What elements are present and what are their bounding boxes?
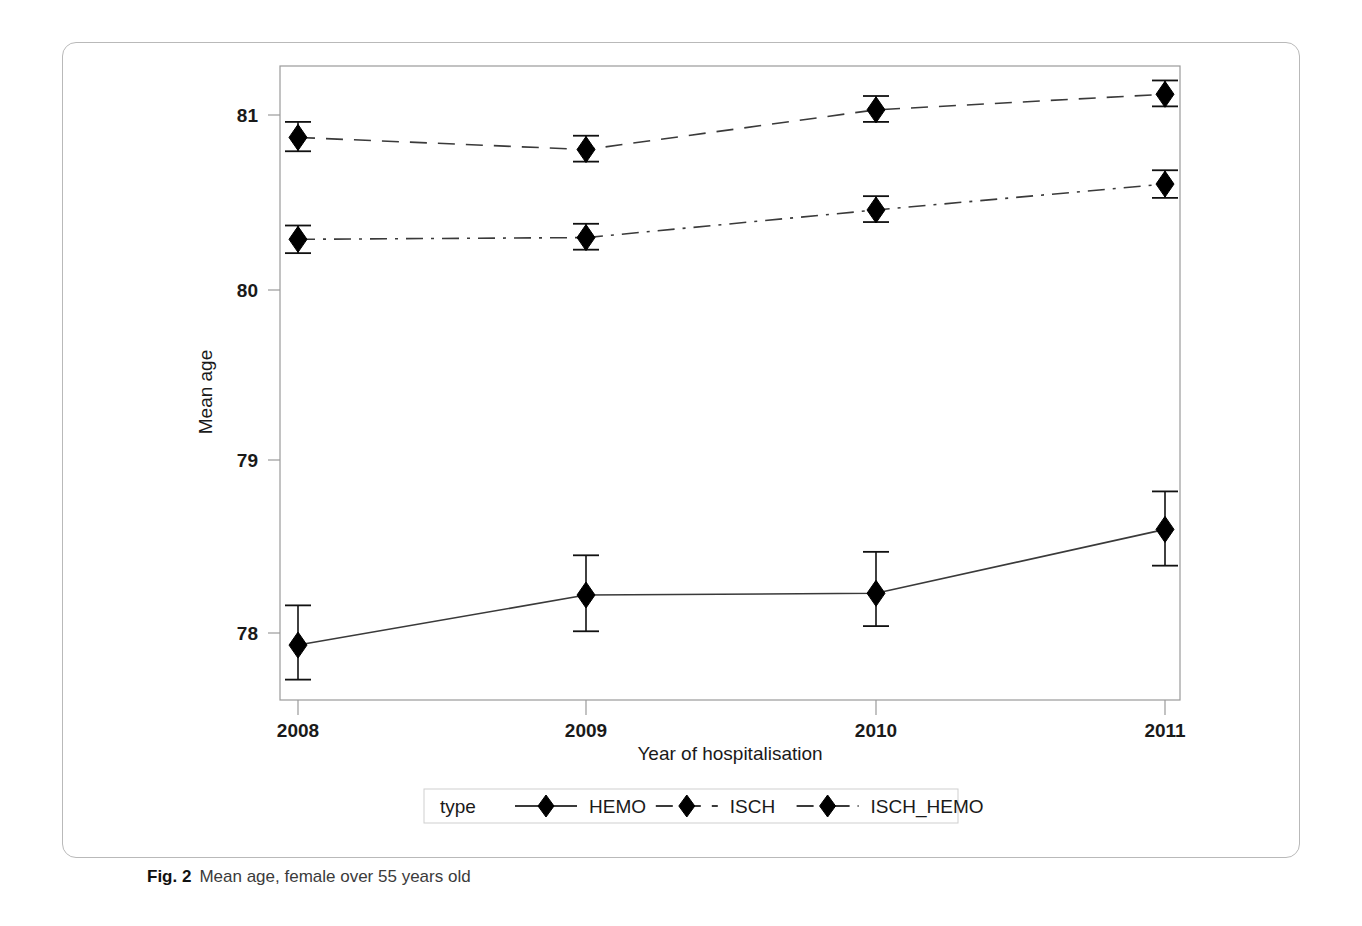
- series-line: [298, 94, 1165, 149]
- data-point-marker: [289, 226, 307, 252]
- x-axis-ticks: 2008200920102011: [277, 700, 1186, 741]
- series-isch: [285, 80, 1178, 162]
- y-tick-label: 78: [237, 623, 258, 644]
- data-point-marker: [1156, 171, 1174, 197]
- series-layer: [285, 80, 1178, 679]
- data-point-marker: [867, 580, 885, 606]
- data-point-marker: [577, 225, 595, 251]
- data-point-marker: [289, 124, 307, 150]
- legend-label: ISCH: [730, 796, 775, 817]
- data-point-marker: [1156, 81, 1174, 107]
- chart-legend: typeHEMOISCHISCH_HEMO: [424, 789, 984, 823]
- series-isch_hemo: [285, 170, 1178, 253]
- chart-plot-area: 78798081 2008200920102011 Mean age Year …: [0, 0, 1362, 926]
- y-tick-label: 80: [237, 280, 258, 301]
- data-point-marker: [538, 795, 554, 817]
- chart-svg: 78798081 2008200920102011 Mean age Year …: [0, 0, 1362, 926]
- y-axis-ticks: 78798081: [237, 105, 280, 644]
- y-tick-label: 81: [237, 105, 259, 126]
- legend-entry-isch_hemo[interactable]: ISCH_HEMO: [797, 795, 984, 818]
- data-point-marker: [289, 632, 307, 658]
- data-point-marker: [577, 137, 595, 163]
- data-point-marker: [867, 197, 885, 223]
- x-tick-label: 2008: [277, 720, 319, 741]
- y-tick-label: 79: [237, 450, 258, 471]
- x-axis-title: Year of hospitalisation: [637, 743, 822, 764]
- legend-entry-isch[interactable]: ISCH: [656, 795, 775, 817]
- y-axis-title: Mean age: [195, 350, 216, 435]
- series-hemo: [285, 491, 1178, 679]
- data-point-marker: [867, 97, 885, 123]
- x-tick-label: 2011: [1144, 720, 1186, 741]
- legend-title: type: [440, 796, 476, 817]
- x-tick-label: 2009: [565, 720, 607, 741]
- data-point-marker: [1156, 516, 1174, 542]
- data-point-marker: [577, 582, 595, 608]
- legend-label: ISCH_HEMO: [871, 796, 984, 818]
- legend-entry-hemo[interactable]: HEMO: [515, 795, 646, 817]
- series-line: [298, 529, 1165, 645]
- data-point-marker: [679, 795, 695, 817]
- data-point-marker: [820, 795, 836, 817]
- x-tick-label: 2010: [855, 720, 897, 741]
- plot-frame: [280, 66, 1180, 700]
- series-line: [298, 184, 1165, 239]
- legend-label: HEMO: [589, 796, 646, 817]
